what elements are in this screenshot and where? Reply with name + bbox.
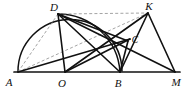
geometry-canvas: A O B M D K C (0, 0, 190, 89)
segment-D-O (58, 14, 65, 72)
point-label-B: B (115, 77, 122, 89)
point-label-C: C (132, 35, 139, 45)
point-label-M: M (170, 76, 181, 88)
segment-D-C (58, 14, 128, 41)
point-label-D: D (49, 1, 58, 13)
segment-D-K-dashed (58, 13, 148, 14)
point-label-O: O (58, 77, 66, 89)
solid-line-group (14, 13, 180, 72)
geometry-figure: A O B M D K C (0, 0, 190, 89)
segment-K-M (148, 13, 175, 72)
point-label-group: A O B M D K C (5, 0, 182, 89)
point-label-K: K (144, 0, 153, 12)
point-label-A: A (5, 76, 13, 88)
